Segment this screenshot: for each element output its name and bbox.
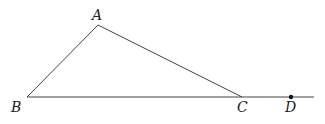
label-d: D <box>284 99 296 115</box>
label-c: C <box>237 99 248 115</box>
label-a: A <box>90 7 102 23</box>
segment-ab <box>27 25 98 97</box>
label-b: B <box>10 99 21 115</box>
triangle-diagram: A B C D <box>0 0 325 124</box>
segment-ac <box>98 25 242 97</box>
